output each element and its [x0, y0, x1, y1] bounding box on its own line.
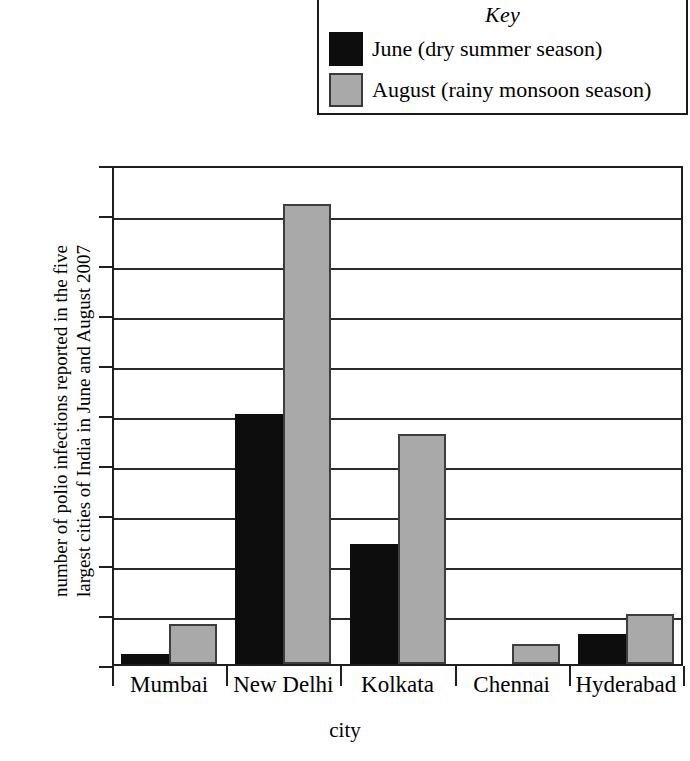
y-tick-mark: [99, 166, 112, 168]
gridline: [114, 218, 681, 220]
bar-chennai-august: [512, 644, 560, 664]
bar-new-delhi-june: [235, 414, 283, 664]
gridline: [114, 368, 681, 370]
bar-hyderabad-august: [626, 614, 674, 664]
y-tick-mark: [99, 316, 112, 318]
x-axis-title: city: [0, 718, 690, 743]
y-axis-title-line2: largest cities of India in June and Augu…: [72, 245, 95, 597]
x-category-label-mumbai: Mumbai: [112, 672, 226, 698]
bar-kolkata-august: [398, 434, 446, 664]
plot-area: [112, 166, 683, 666]
plot-inner: [114, 168, 681, 664]
y-tick-mark: [99, 366, 112, 368]
gridline: [114, 318, 681, 320]
x-category-label-kolkata: Kolkata: [340, 672, 454, 698]
y-tick-mark: [99, 616, 112, 618]
gridline: [114, 268, 681, 270]
x-category-label-chennai: Chennai: [455, 672, 569, 698]
bar-new-delhi-august: [283, 204, 331, 664]
gridline: [114, 418, 681, 420]
y-tick-mark: [99, 416, 112, 418]
y-tick-mark: [99, 566, 112, 568]
bar-hyderabad-june: [578, 634, 626, 664]
y-tick-mark: [99, 266, 112, 268]
y-tick-mark: [99, 516, 112, 518]
x-tick-mark: [683, 666, 685, 686]
bar-mumbai-june: [121, 654, 169, 664]
bar-kolkata-june: [350, 544, 398, 664]
x-category-label-new-delhi: New Delhi: [226, 672, 340, 698]
bar-chart: number of polio infections reported in t…: [0, 0, 690, 761]
y-tick-mark: [99, 466, 112, 468]
bar-mumbai-august: [169, 624, 217, 664]
y-tick-mark: [99, 216, 112, 218]
y-axis-title: number of polio infections reported in t…: [49, 161, 95, 681]
y-tick-mark: [99, 666, 112, 668]
y-axis-title-line1: number of polio infections reported in t…: [49, 245, 72, 597]
x-category-label-hyderabad: Hyderabad: [569, 672, 683, 698]
